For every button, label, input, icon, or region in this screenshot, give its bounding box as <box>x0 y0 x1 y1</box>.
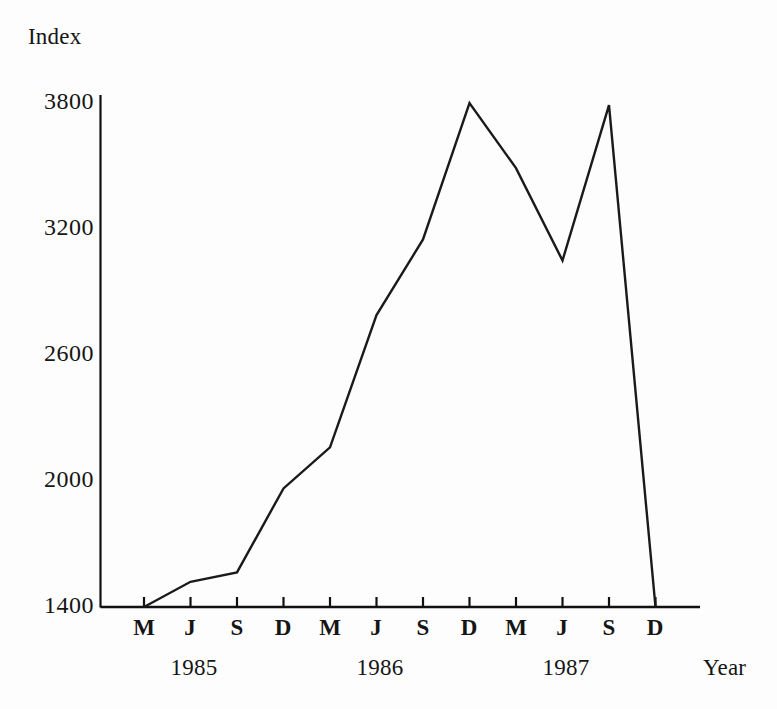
x-tick-label-11: D <box>635 615 675 641</box>
x-tick-label-10: S <box>589 615 629 641</box>
data-series-line <box>144 103 656 607</box>
year-label-1986: 1986 <box>340 655 420 681</box>
year-label-1985: 1985 <box>154 655 234 681</box>
line-chart-figure: Index Year 3800 3200 2600 2000 1400 <box>0 0 777 709</box>
x-tick-label-6: S <box>403 615 443 641</box>
x-tick-label-4: M <box>310 615 350 641</box>
x-tick-marks <box>144 597 656 607</box>
x-tick-label-2: S <box>217 615 257 641</box>
year-label-1987: 1987 <box>526 655 606 681</box>
chart-canvas <box>0 0 777 709</box>
x-tick-label-7: D <box>449 615 489 641</box>
x-tick-label-3: D <box>263 615 303 641</box>
x-tick-label-8: M <box>496 615 536 641</box>
x-tick-label-1: J <box>170 615 210 641</box>
x-tick-label-5: J <box>356 615 396 641</box>
x-tick-label-9: J <box>542 615 582 641</box>
x-tick-label-0: M <box>124 615 164 641</box>
